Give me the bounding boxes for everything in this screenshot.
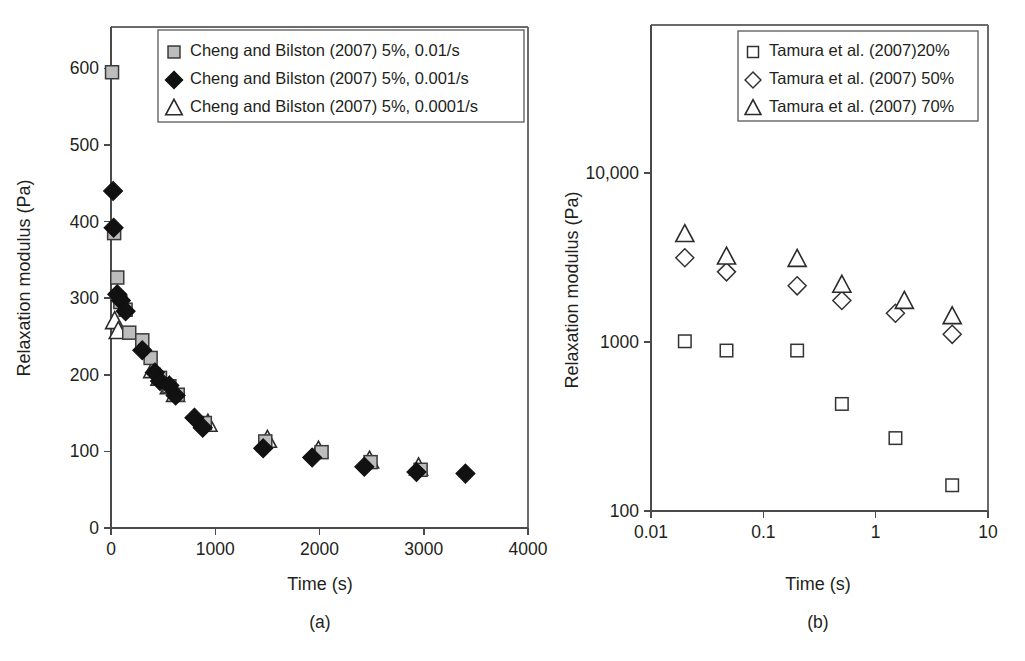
panel-b-data-points (676, 225, 961, 492)
panel-b-y-tick-label: 100 (610, 501, 639, 521)
panel-b-legend-label: Tamura et al. (2007) 70% (769, 97, 955, 115)
panel-b-x-tick-label: 0.1 (751, 522, 775, 542)
panel-b-x-tick-label: 0.01 (634, 522, 668, 542)
figure-root: 0100200300400500600 01000200030004000 Ti… (0, 0, 1025, 661)
data-marker-triangle-open (943, 307, 961, 324)
data-marker-diamond-open (717, 263, 735, 281)
data-marker-diamond-open (676, 249, 694, 267)
data-marker-diamond-open (943, 325, 961, 343)
data-marker-triangle-open (833, 275, 851, 292)
panel-b-caption: (b) (807, 612, 828, 632)
data-marker-square-open (679, 335, 692, 348)
panel-b-legend: Tamura et al. (2007)20%Tamura et al. (20… (738, 31, 978, 121)
data-marker-triangle-open (676, 225, 694, 242)
data-marker-square-open (946, 479, 959, 492)
panel-b-legend-label: Tamura et al. (2007) 50% (769, 69, 955, 87)
panel-b-y-ticks: 100100010,000 (585, 163, 651, 521)
panel-b-x-ticks: 0.010.1110 (634, 511, 998, 542)
data-marker-square-open (720, 344, 733, 357)
panel-b-x-tick-label: 10 (978, 522, 998, 542)
data-marker-diamond-open (833, 292, 851, 310)
panel-b-x-tick-label: 1 (871, 522, 881, 542)
panel-b-y-tick-label: 10,000 (585, 163, 639, 183)
data-marker-square-open (889, 432, 902, 445)
data-marker-square-open (791, 344, 804, 357)
series-0 (679, 335, 959, 491)
panel-b-x-axis-label: Time (s) (785, 574, 850, 594)
panel-b-y-tick-label: 1000 (600, 332, 639, 352)
panel-b-legend-label: Tamura et al. (2007)20% (769, 41, 950, 59)
data-marker-diamond-open (788, 277, 806, 295)
panel-b-y-axis-label: Relaxation modulus (Pa) (562, 191, 582, 388)
data-marker-triangle-open (788, 249, 806, 266)
series-2 (676, 225, 961, 324)
data-marker-square-open (836, 398, 849, 411)
panel-b-scatter-chart: 100100010,000 0.010.1110 Time (s) Relaxa… (0, 0, 1025, 661)
data-marker-square-open (748, 47, 759, 58)
data-marker-triangle-open (717, 247, 735, 264)
data-marker-triangle-open (895, 291, 913, 308)
